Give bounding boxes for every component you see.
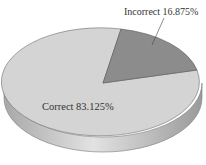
label-correct: Correct 83.125% (42, 101, 114, 112)
label-incorrect: Incorrect 16.875% (124, 6, 198, 17)
pie-chart-svg: Incorrect 16.875% Correct 83.125% (0, 0, 206, 165)
pie-chart: Incorrect 16.875% Correct 83.125% (0, 0, 206, 165)
